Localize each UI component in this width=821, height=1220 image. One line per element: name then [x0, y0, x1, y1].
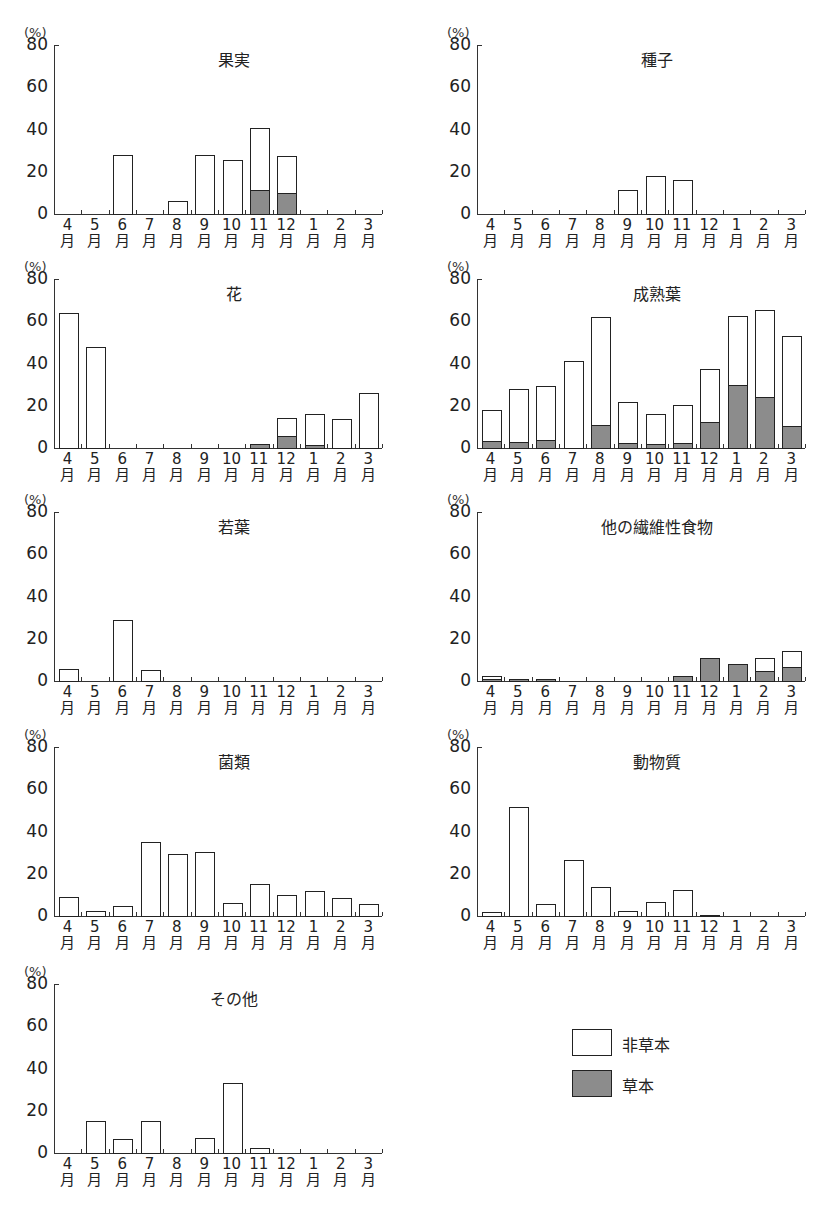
month-suffix: 月: [136, 233, 163, 249]
month-number: 5: [504, 919, 531, 935]
month-suffix: 月: [81, 700, 108, 716]
bar-non-herb: [646, 902, 666, 917]
panel-title: 成熟葉: [557, 281, 757, 305]
x-tick-label: 11月: [245, 684, 272, 716]
bar-non-herb: [250, 884, 270, 917]
x-tick-mark: [109, 210, 110, 214]
y-tick-label: 60: [431, 778, 471, 798]
month-suffix: 月: [191, 467, 218, 483]
month-number: 6: [109, 1156, 136, 1172]
y-axis: [54, 984, 55, 1153]
x-tick-label: 10月: [641, 217, 668, 249]
x-tick-mark: [355, 677, 356, 681]
bar-herb: [755, 671, 775, 682]
month-number: 4: [477, 684, 504, 700]
bar-non-herb: [359, 904, 379, 917]
month-suffix: 月: [109, 1172, 136, 1188]
month-suffix: 月: [273, 700, 300, 716]
month-number: 3: [355, 217, 382, 233]
x-tick-label: 2月: [750, 451, 777, 483]
bar-herb: [700, 658, 720, 682]
y-tick-label: 60: [8, 76, 48, 96]
y-tick-label: 60: [8, 778, 48, 798]
x-tick-label: 12月: [273, 684, 300, 716]
month-suffix: 月: [191, 700, 218, 716]
month-suffix: 月: [54, 935, 81, 951]
month-number: 5: [81, 684, 108, 700]
bar-herb: [755, 397, 775, 449]
month-suffix: 月: [191, 1172, 218, 1188]
y-tick-label: 40: [8, 353, 48, 373]
x-tick-mark: [81, 677, 82, 681]
x-tick-mark: [668, 912, 669, 916]
x-tick-mark: [532, 210, 533, 214]
month-suffix: 月: [614, 935, 641, 951]
x-tick-label: 11月: [245, 217, 272, 249]
month-number: 9: [191, 684, 218, 700]
bar-non-herb: [564, 860, 584, 917]
month-suffix: 月: [273, 233, 300, 249]
month-number: 9: [614, 684, 641, 700]
month-number: 11: [668, 217, 695, 233]
x-tick-mark: [81, 1149, 82, 1153]
x-tick-mark: [750, 677, 751, 681]
bar-herb: [728, 385, 748, 449]
bar-non-herb: [223, 1083, 243, 1154]
x-tick-mark: [300, 210, 301, 214]
month-suffix: 月: [532, 935, 559, 951]
x-tick-mark: [355, 444, 356, 448]
month-suffix: 月: [218, 467, 245, 483]
month-suffix: 月: [218, 233, 245, 249]
legend-label-non-herb: 非草本: [622, 1032, 670, 1056]
month-number: 5: [504, 684, 531, 700]
x-tick-label: 9月: [191, 1156, 218, 1188]
x-tick-mark: [109, 677, 110, 681]
x-tick-mark: [559, 444, 560, 448]
x-tick-label: 10月: [218, 217, 245, 249]
x-tick-label: 1月: [723, 919, 750, 951]
month-suffix: 月: [163, 467, 190, 483]
y-tick-label: 0: [8, 1142, 48, 1162]
x-tick-label: 1月: [300, 1156, 327, 1188]
bar-non-herb: [223, 903, 243, 917]
x-tick-mark: [696, 677, 697, 681]
panel-title: 果実: [134, 47, 334, 71]
month-suffix: 月: [559, 233, 586, 249]
x-tick-label: 11月: [668, 919, 695, 951]
x-tick-mark: [273, 677, 274, 681]
bar-non-herb: [250, 1148, 270, 1154]
month-number: 8: [163, 1156, 190, 1172]
month-number: 4: [54, 217, 81, 233]
x-tick-mark: [355, 210, 356, 214]
month-number: 8: [163, 451, 190, 467]
x-tick-mark: [532, 677, 533, 681]
month-number: 8: [586, 684, 613, 700]
month-number: 10: [218, 217, 245, 233]
x-tick-label: 5月: [81, 451, 108, 483]
month-suffix: 月: [355, 935, 382, 951]
month-suffix: 月: [504, 467, 531, 483]
x-tick-label: 11月: [245, 919, 272, 951]
x-tick-mark: [559, 677, 560, 681]
x-tick-mark: [532, 912, 533, 916]
month-suffix: 月: [81, 233, 108, 249]
x-tick-label: 5月: [81, 684, 108, 716]
month-number: 12: [273, 684, 300, 700]
month-number: 10: [641, 217, 668, 233]
month-suffix: 月: [136, 700, 163, 716]
x-tick-mark: [109, 1149, 110, 1153]
month-suffix: 月: [641, 700, 668, 716]
x-tick-label: 7月: [136, 684, 163, 716]
x-tick-mark: [750, 444, 751, 448]
x-tick-label: 5月: [504, 919, 531, 951]
bar-herb: [536, 679, 556, 682]
x-tick-label: 8月: [163, 451, 190, 483]
month-number: 6: [532, 217, 559, 233]
y-tick-label: 60: [8, 310, 48, 330]
x-tick-mark: [136, 210, 137, 214]
x-tick-mark: [586, 444, 587, 448]
y-tick-label: 0: [431, 905, 471, 925]
y-tick-label: 0: [431, 203, 471, 223]
y-tick-label: 20: [8, 1100, 48, 1120]
month-suffix: 月: [355, 233, 382, 249]
